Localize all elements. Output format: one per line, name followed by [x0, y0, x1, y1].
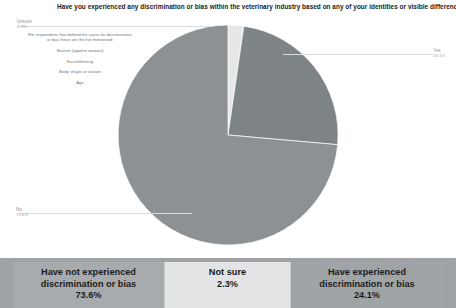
pie-label-no-value: 73.6%	[16, 212, 28, 217]
pie-label-yes: Yes 24.1%	[433, 48, 445, 59]
annotation-heading: For respondents that defined the cause f…	[26, 32, 134, 42]
legend-cell-not-sure-line1: Not sure	[209, 267, 246, 277]
legend-cell-experienced[interactable]: Have experienced discrimination or bias …	[291, 262, 443, 308]
page-title: Have you experienced any discrimination …	[57, 2, 447, 11]
leader-line-no	[20, 213, 192, 214]
legend-cell-experienced-percent: 24.1%	[291, 290, 443, 302]
legend-cell-not-experienced-line2: discrimination or bias	[41, 279, 136, 289]
pie-label-unsure: Unsure 2.3%	[17, 19, 32, 30]
cause-item-4: Age	[26, 80, 134, 85]
cause-item-1: Sexism (against women)	[26, 48, 134, 53]
pie-label-no: No 73.6%	[16, 207, 28, 218]
pie-label-yes-name: Yes	[433, 48, 441, 53]
pie-label-no-name: No	[16, 207, 22, 212]
legend-cell-not-experienced-line1: Have not experienced	[41, 267, 136, 277]
legend-cell-not-experienced-percent: 73.6%	[13, 290, 164, 302]
cause-item-2: Race/ethnicity	[26, 59, 134, 64]
legend-cell-not-sure-percent: 2.3%	[165, 279, 290, 291]
pie-label-unsure-value: 2.3%	[17, 24, 32, 29]
pie-label-unsure-name: Unsure	[17, 19, 32, 24]
annotation-block: For respondents that defined the cause f…	[26, 32, 134, 85]
pie-chart-plot-area: Unsure 2.3% No 73.6% Yes 24.1% For respo…	[0, 14, 456, 258]
legend-cell-not-sure[interactable]: Not sure 2.3%	[165, 262, 291, 308]
leader-line-unsure	[18, 26, 213, 27]
legend-cell-not-experienced[interactable]: Have not experienced discrimination or b…	[13, 262, 165, 308]
leader-line-yes	[283, 54, 433, 55]
legend-bar: Have not experienced discrimination or b…	[0, 258, 456, 308]
legend-cell-experienced-line2: discrimination or bias	[319, 279, 414, 289]
pie-slice-yes[interactable]	[228, 26, 338, 145]
cause-item-3: Body shape or stature	[26, 69, 134, 74]
legend-cell-experienced-line1: Have experienced	[328, 267, 406, 277]
pie-label-yes-value: 24.1%	[433, 53, 445, 58]
